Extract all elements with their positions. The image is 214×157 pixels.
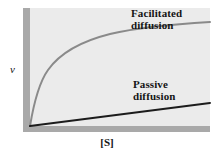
passive-diffusion-label-line2: diffusion xyxy=(133,91,175,103)
facilitated-diffusion-label: Facilitated diffusion xyxy=(131,8,182,31)
facilitated-diffusion-label-line1: Facilitated xyxy=(131,8,182,20)
x-axis-bar xyxy=(23,126,210,132)
passive-diffusion-label-line1: Passive xyxy=(133,79,175,91)
passive-diffusion-line xyxy=(30,103,210,126)
passive-diffusion-label: Passive diffusion xyxy=(133,79,175,102)
x-axis-label: [S] xyxy=(0,136,214,148)
diffusion-kinetics-figure: Facilitated diffusion Passive diffusion … xyxy=(0,0,214,157)
y-axis-label: v xyxy=(10,63,15,75)
curves-layer xyxy=(30,8,210,126)
facilitated-diffusion-label-line2: diffusion xyxy=(131,20,182,32)
y-axis-bar xyxy=(23,8,30,132)
facilitated-diffusion-curve xyxy=(30,22,210,126)
